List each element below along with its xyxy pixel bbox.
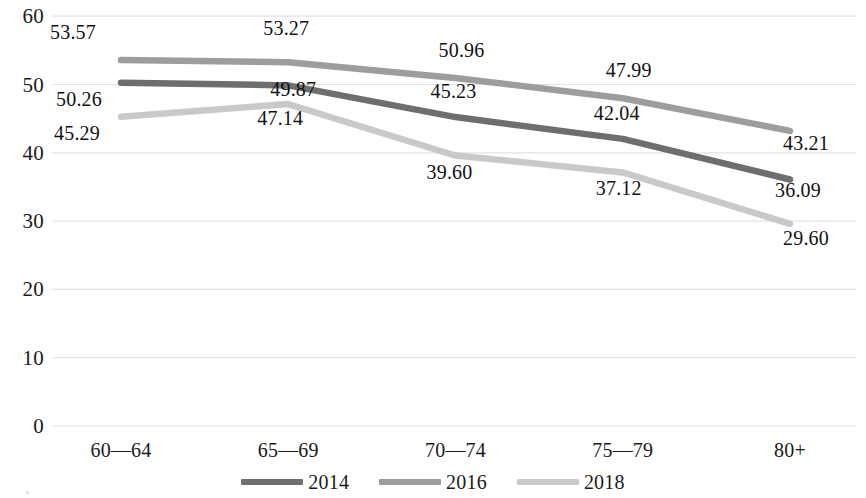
- data-point-label: 37.12: [579, 178, 659, 198]
- data-point-label: 29.60: [766, 228, 846, 248]
- y-axis-tick-label: 40: [0, 143, 44, 164]
- x-axis-tick-label: 60—64: [51, 440, 191, 460]
- legend-item-2014[interactable]: 2014: [241, 472, 349, 492]
- data-point-label: 53.57: [33, 22, 113, 42]
- data-point-label: 47.99: [589, 60, 669, 80]
- data-point-label: 39.60: [410, 162, 490, 182]
- chart-legend: 201420162018: [0, 466, 866, 498]
- x-axis-tick-label: 75—79: [553, 440, 693, 460]
- y-axis-tick-label: 20: [0, 279, 44, 300]
- legend-swatch-icon: [517, 479, 579, 485]
- legend-label: 2016: [446, 472, 487, 492]
- data-point-label: 36.09: [758, 180, 838, 200]
- scan-artifact: [26, 491, 29, 494]
- line-chart: 6050403020100 60—6465—6970—7475—7980+ 50…: [0, 0, 866, 498]
- data-point-label: 50.26: [39, 89, 119, 109]
- data-point-label: 49.87: [253, 79, 333, 99]
- legend-item-2016[interactable]: 2016: [379, 472, 487, 492]
- data-point-label: 53.27: [246, 18, 326, 38]
- data-point-label: 43.21: [766, 133, 846, 153]
- y-axis-tick-label: 0: [0, 416, 44, 437]
- legend-label: 2014: [308, 472, 349, 492]
- data-point-label: 47.14: [240, 108, 320, 128]
- x-axis-tick-label: 80+: [720, 440, 860, 460]
- data-point-label: 50.96: [422, 40, 502, 60]
- data-point-label: 45.29: [37, 123, 117, 143]
- legend-item-2018[interactable]: 2018: [517, 472, 625, 492]
- x-axis-tick-label: 70—74: [386, 440, 526, 460]
- chart-canvas: [0, 0, 866, 498]
- legend-label: 2018: [584, 472, 625, 492]
- y-axis-tick-label: 10: [0, 348, 44, 369]
- x-axis-tick-label: 65—69: [218, 440, 358, 460]
- data-point-label: 42.04: [577, 103, 657, 123]
- y-axis-tick-label: 50: [0, 75, 44, 96]
- y-axis-tick-label: 30: [0, 211, 44, 232]
- legend-swatch-icon: [379, 479, 441, 485]
- data-point-label: 45.23: [414, 81, 494, 101]
- legend-swatch-icon: [241, 479, 303, 485]
